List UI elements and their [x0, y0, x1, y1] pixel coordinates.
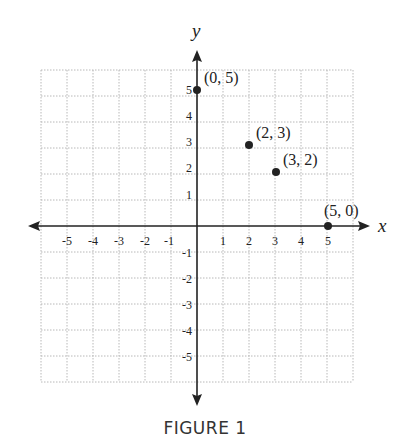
data-point [324, 222, 332, 230]
figure-caption: FIGURE 1 [0, 418, 410, 438]
y-tick-label: 4 [186, 109, 192, 123]
y-tick-label: -3 [182, 298, 192, 312]
point-label: (5, 0) [324, 202, 359, 220]
x-tick-label: 2 [246, 234, 252, 248]
y-tick-label: -2 [182, 272, 192, 286]
x-tick-label: -1 [164, 234, 174, 248]
point-label: (3, 2) [283, 151, 318, 169]
y-tick-label: -1 [182, 246, 192, 260]
y-tick-label: 5 [186, 83, 192, 97]
data-point [272, 168, 280, 176]
x-tick-label: -4 [88, 234, 98, 248]
x-tick-label: -3 [114, 234, 124, 248]
point-label: (2, 3) [256, 124, 291, 142]
y-axis-label: y [190, 20, 201, 41]
x-axis-label: x [377, 215, 387, 236]
x-tick-label: -2 [140, 234, 150, 248]
y-axis: y [190, 20, 202, 406]
data-points: (0, 5) (2, 3) (3, 2) (5, 0) [193, 69, 359, 230]
point-label: (0, 5) [204, 69, 239, 87]
y-tick-label: 3 [186, 135, 192, 149]
x-tick-label: 4 [298, 234, 304, 248]
data-point [245, 141, 253, 149]
y-tick-labels: 5 4 3 2 1 -1 -2 -3 -4 -5 [182, 83, 192, 364]
x-tick-label: -5 [62, 234, 72, 248]
x-tick-label: 5 [325, 234, 331, 248]
y-tick-label: -5 [182, 350, 192, 364]
y-tick-label: 2 [186, 161, 192, 175]
y-tick-label: 1 [186, 188, 192, 202]
y-tick-label: -4 [182, 324, 192, 338]
x-tick-label: 3 [272, 234, 278, 248]
x-tick-label: 1 [220, 234, 226, 248]
coordinate-plane: x y -5 -4 -3 -2 -1 1 2 3 4 5 5 4 3 2 1 -… [0, 0, 410, 446]
data-point [193, 86, 201, 94]
